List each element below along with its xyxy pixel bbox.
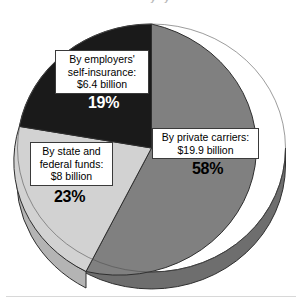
slice-label-line-1: By private carriers: <box>157 131 254 144</box>
slice-label-line-2: $19.9 billion <box>157 144 254 157</box>
slice-label-private-carriers: By private carriers: $19.9 billion <box>152 128 259 159</box>
bottom-divider-rule <box>6 296 296 297</box>
slice-label-state-federal-funds: By state and federal funds: $8 billion <box>30 142 113 186</box>
slice-label-line-3: $8 billion <box>35 170 108 183</box>
slice-percent-state-federal-funds: 23% <box>54 188 85 206</box>
slice-percent-employers-self-insurance: 19% <box>88 94 119 112</box>
slice-label-line-1: By employers' <box>60 53 144 66</box>
slice-label-line-1: By state and <box>35 145 108 158</box>
slice-percent-private-carriers: 58% <box>192 160 223 178</box>
slice-label-line-3: $6.4 billion <box>60 78 144 91</box>
pie-chart-figure: y y By employers' self-insurance: $6.4 b… <box>0 0 302 303</box>
slice-label-line-2: federal funds: <box>35 158 108 171</box>
slice-label-line-2: self-insurance: <box>60 66 144 79</box>
slice-label-employers-self-insurance: By employers' self-insurance: $6.4 billi… <box>55 50 149 94</box>
